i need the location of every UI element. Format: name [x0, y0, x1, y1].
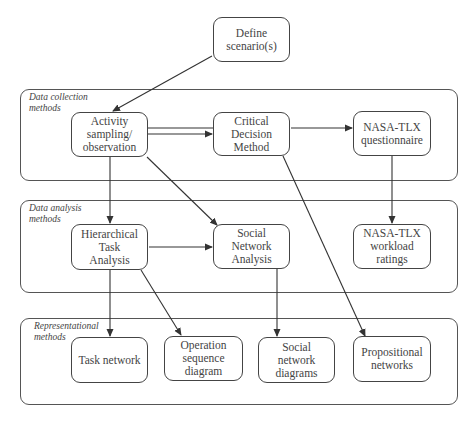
node-activity-sampling: Activity sampling/ observation [71, 112, 148, 157]
node-operation-sequence-diagram: Operation sequence diagram [164, 336, 243, 381]
node-define-scenarios: Define scenario(s) [213, 17, 290, 62]
node-nasa-tlx-workload-ratings: NASA-TLX workload ratings [353, 224, 431, 269]
node-hierarchical-task-analysis: Hierarchical Task Analysis [71, 224, 148, 270]
node-social-network-analysis: Social Network Analysis [213, 224, 290, 269]
node-nasa-tlx-questionnaire: NASA-TLX questionnaire [353, 111, 431, 156]
node-critical-decision-method: Critical Decision Method [213, 112, 290, 156]
group-label-data-analysis: Data analysis methods [29, 203, 82, 225]
group-label-data-collection: Data collection methods [29, 92, 88, 114]
node-task-network: Task network [71, 337, 148, 383]
node-social-network-diagrams: Social network diagrams [258, 337, 335, 383]
node-propositional-networks: Propositional networks [353, 336, 431, 382]
